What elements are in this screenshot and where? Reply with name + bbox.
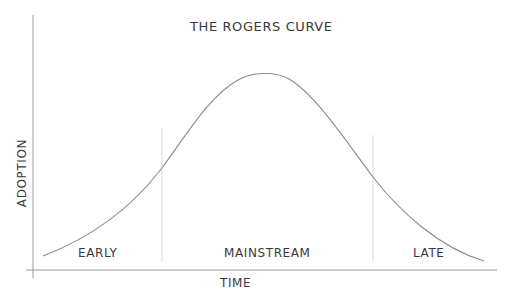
segment-label-mainstream: MAINSTREAM — [224, 247, 311, 259]
segment-label-early: EARLY — [78, 247, 118, 259]
adoption-bell-curve — [43, 73, 484, 261]
x-axis-label: TIME — [220, 277, 251, 289]
segment-label-late: LATE — [413, 247, 445, 259]
y-axis-label: ADOPTION — [16, 136, 28, 210]
chart-title: THE ROGERS CURVE — [190, 20, 333, 33]
